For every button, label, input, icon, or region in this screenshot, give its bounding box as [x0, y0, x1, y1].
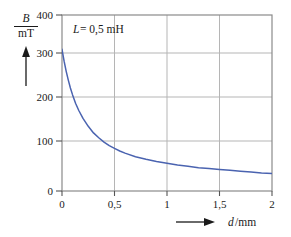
ytick-label-300: 300	[37, 47, 54, 59]
annotation-value: = 0,5 mH	[80, 23, 124, 36]
xtick-label-0: 0	[59, 198, 65, 210]
xtick-label-1.5: 1,5	[213, 198, 227, 210]
y-axis-denominator: mT	[18, 27, 34, 39]
ytick-label-0: 0	[48, 185, 54, 197]
xtick-label-0.5: 0,5	[108, 198, 122, 210]
figure-background	[0, 0, 291, 237]
ytick-label-200: 200	[37, 91, 54, 103]
magnetic-field-vs-gap-figure: 400 300 200 100 0 0 0,5 1 1,5 2 B mT d /…	[0, 0, 291, 237]
ytick-label-400: 400	[37, 9, 54, 21]
ytick-label-100: 100	[37, 135, 54, 147]
chart-svg: 400 300 200 100 0 0 0,5 1 1,5 2 B mT d /…	[0, 0, 291, 237]
x-axis-symbol: d	[228, 216, 234, 228]
xtick-label-2: 2	[269, 198, 275, 210]
xtick-label-1: 1	[164, 198, 170, 210]
y-axis-numerator: B	[22, 12, 29, 24]
x-axis-unit-part: /mm	[235, 216, 256, 228]
annotation-symbol: L	[72, 23, 79, 35]
annotation-inductance: L = 0,5 mH	[72, 23, 124, 36]
x-axis-label: d /mm	[228, 216, 256, 228]
